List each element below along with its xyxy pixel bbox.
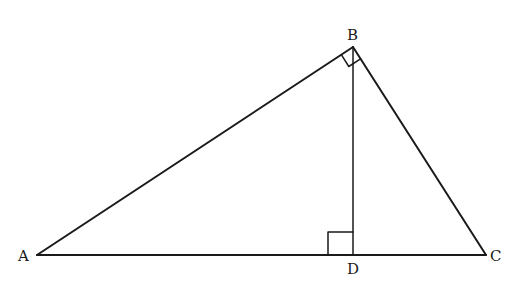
label-d: D (347, 260, 359, 278)
right-angle-mark-d (328, 232, 353, 255)
diagram-canvas: A B C D (0, 0, 517, 286)
label-b: B (347, 26, 358, 44)
segment-bc (353, 47, 486, 255)
segment-ab (37, 47, 353, 255)
right-angle-mark-b (341, 55, 360, 67)
label-c: C (490, 247, 501, 265)
label-a: A (17, 247, 29, 265)
triangle-diagram: A B C D (0, 0, 517, 286)
